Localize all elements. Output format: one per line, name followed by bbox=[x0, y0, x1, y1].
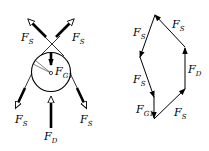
arrow-fs-bottom-left bbox=[18, 74, 32, 103]
poly-label-fs-top-right: FS bbox=[171, 18, 185, 33]
diagram-canvas: FS FS FG1 FS FS FD FS FS FS FD FG1 FS bbox=[0, 0, 209, 151]
label-fd: FD bbox=[43, 130, 58, 145]
label-fs-bottom-right: FS bbox=[79, 113, 93, 128]
free-body-diagram: FS FS FG1 FS FS FD bbox=[14, 23, 93, 145]
arrow-fs-top-left bbox=[32, 23, 46, 37]
poly-label-fs-left-upper: FS bbox=[132, 26, 146, 41]
pulley-center bbox=[49, 71, 52, 74]
poly-label-fg: FG1 bbox=[135, 103, 154, 118]
poly-label-fd: FD bbox=[187, 63, 202, 78]
label-fs-top-left: FS bbox=[20, 31, 34, 46]
poly-label-fs-bottom-right: FS bbox=[173, 106, 187, 121]
poly-label-fs-left-lower: FS bbox=[132, 73, 146, 88]
label-fs-bottom-left: FS bbox=[14, 113, 28, 128]
arrow-fs-top-right bbox=[56, 23, 70, 37]
label-fs-top-right: FS bbox=[71, 31, 85, 46]
force-polygon-labels: FS FS FS FD FG1 FS bbox=[132, 18, 202, 121]
